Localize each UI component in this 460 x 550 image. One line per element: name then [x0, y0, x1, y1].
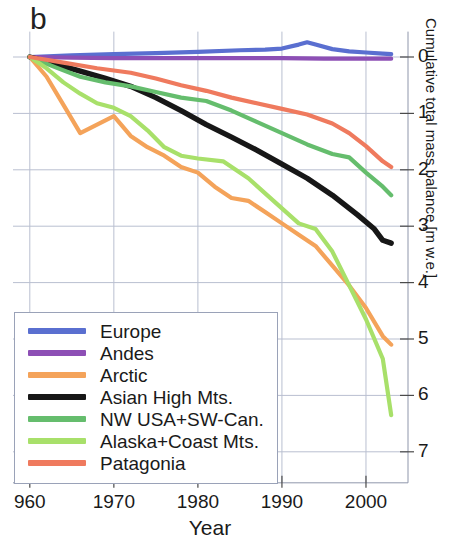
legend-label-nw-usa-sw-can: NW USA+SW-Can. — [100, 410, 264, 429]
legend-swatch-patagonia — [28, 460, 86, 466]
legend-item: Arctic — [15, 364, 277, 386]
y-tick-label: 0 — [418, 45, 440, 67]
x-tick-label: 1980 — [161, 491, 235, 513]
series-line-asian-high-mts — [30, 57, 391, 243]
legend-swatch-alaska-coast-mts — [28, 438, 86, 444]
x-tick-label: 1970 — [77, 491, 151, 513]
legend-swatch-asian-high-mts — [28, 394, 86, 400]
legend-item: Alaska+Coast Mts. — [15, 430, 277, 452]
legend-item: Andes — [15, 342, 277, 364]
legend-item: Patagonia — [15, 452, 277, 474]
series-line-europe — [30, 42, 391, 57]
y-tick-label: 1 — [418, 101, 440, 123]
legend-item: Asian High Mts. — [15, 386, 277, 408]
legend-label-patagonia: Patagonia — [100, 454, 186, 473]
legend-swatch-arctic — [28, 372, 86, 378]
legend-item: NW USA+SW-Can. — [15, 408, 277, 430]
y-tick-label: 6 — [418, 383, 440, 405]
x-tick-label: 2000 — [329, 491, 403, 513]
series-line-andes — [30, 57, 391, 59]
y-tick-label: 2 — [418, 158, 440, 180]
legend-swatch-europe — [28, 328, 86, 334]
legend-swatch-nw-usa-sw-can — [28, 416, 86, 422]
y-tick-label: 4 — [418, 271, 440, 293]
x-axis-title: Year — [110, 516, 310, 540]
x-tick-label: 960 — [0, 491, 67, 513]
legend-label-asian-high-mts: Asian High Mts. — [100, 388, 233, 407]
legend-label-europe: Europe — [100, 322, 161, 341]
x-tick-label: 1990 — [245, 491, 319, 513]
y-tick-label: 5 — [418, 327, 440, 349]
legend-label-arctic: Arctic — [100, 366, 148, 385]
y-tick-label: 7 — [418, 440, 440, 462]
legend-item: Europe — [15, 320, 277, 342]
legend-label-alaska-coast-mts: Alaska+Coast Mts. — [100, 432, 259, 451]
legend: Europe Andes Arctic Asian High Mts. NW U… — [14, 312, 278, 484]
legend-label-andes: Andes — [100, 344, 154, 363]
figure-panel-b: b Cumulative total mass balance [m w.e.]… — [0, 0, 460, 550]
legend-swatch-andes — [28, 350, 86, 356]
y-tick-label: 3 — [418, 214, 440, 236]
